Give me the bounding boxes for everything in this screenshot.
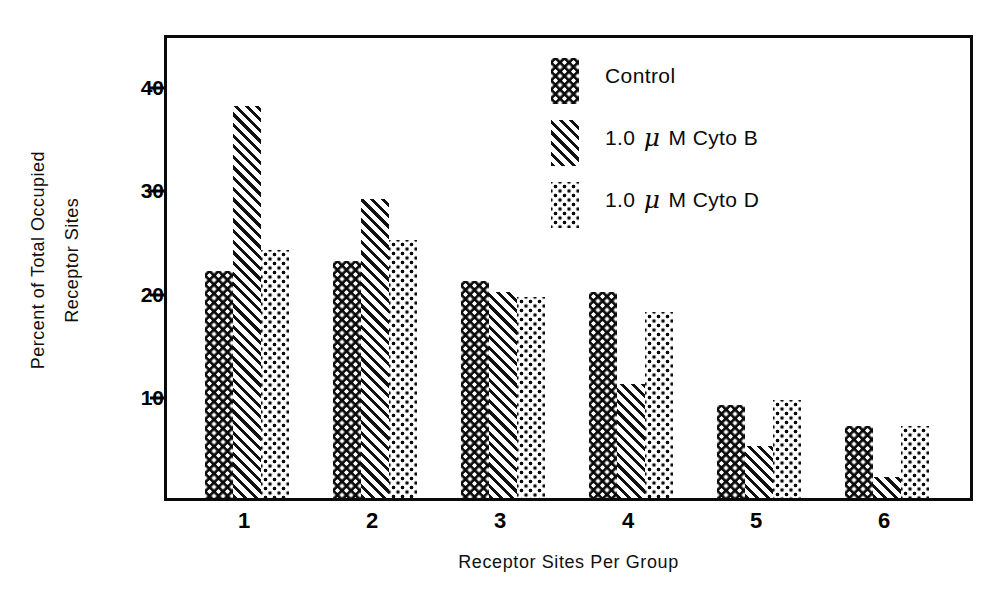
y-axis-title-line2: Receptor Sites bbox=[55, 151, 89, 369]
y-axis-ticks: 10203040 bbox=[104, 0, 164, 598]
bar bbox=[901, 426, 929, 498]
legend-label: 1.0 μ M Cyto D bbox=[605, 188, 759, 212]
mu-symbol: μ bbox=[642, 185, 663, 214]
x-tick-label: 3 bbox=[455, 508, 545, 534]
bar bbox=[361, 199, 389, 498]
bar bbox=[389, 240, 417, 498]
plot-frame bbox=[164, 35, 973, 501]
x-tick-label: 2 bbox=[327, 508, 417, 534]
legend-swatch bbox=[551, 58, 579, 104]
bar-group bbox=[589, 38, 673, 498]
legend-swatch bbox=[551, 120, 579, 166]
x-tick-label: 6 bbox=[839, 508, 929, 534]
bar bbox=[617, 384, 645, 498]
legend-swatch bbox=[551, 182, 579, 228]
bar bbox=[717, 405, 745, 498]
bar bbox=[845, 426, 873, 498]
bar bbox=[333, 261, 361, 498]
bar bbox=[645, 312, 673, 498]
legend-label: Control bbox=[605, 64, 676, 88]
bar bbox=[745, 446, 773, 498]
bar-group bbox=[717, 38, 801, 498]
bar bbox=[233, 106, 261, 498]
bar bbox=[261, 250, 289, 498]
bar bbox=[517, 297, 545, 498]
bar-chart-figure: Percent of Total Occupied Receptor Sites… bbox=[0, 0, 1003, 598]
x-tick-label: 5 bbox=[711, 508, 801, 534]
bar bbox=[589, 292, 617, 498]
x-axis-title: Receptor Sites Per Group bbox=[164, 552, 973, 573]
bar bbox=[205, 271, 233, 498]
y-axis-title: Percent of Total Occupied Receptor Sites bbox=[0, 0, 110, 520]
legend-label: 1.0 μ M Cyto B bbox=[605, 126, 758, 150]
x-tick-label: 1 bbox=[199, 508, 289, 534]
bar bbox=[489, 292, 517, 498]
bar-group bbox=[333, 38, 417, 498]
bar-group bbox=[845, 38, 929, 498]
bar-group bbox=[461, 38, 545, 498]
bar bbox=[873, 477, 901, 498]
x-tick-label: 4 bbox=[583, 508, 673, 534]
bar bbox=[773, 400, 801, 498]
plot-area bbox=[167, 38, 970, 498]
y-axis-title-line1: Percent of Total Occupied bbox=[21, 151, 55, 369]
mu-symbol: μ bbox=[642, 123, 663, 152]
bar bbox=[461, 281, 489, 498]
bar-group bbox=[205, 38, 289, 498]
